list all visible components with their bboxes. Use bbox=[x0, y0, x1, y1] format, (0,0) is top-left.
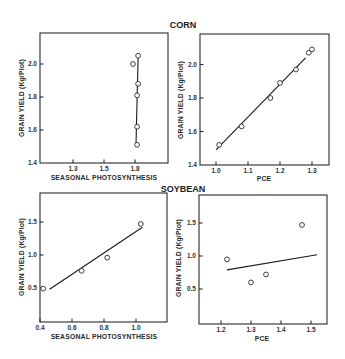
data-point bbox=[138, 222, 143, 227]
data-point bbox=[135, 124, 140, 129]
y-axis-label: GRAIN YIELD (Kg/Plot) bbox=[175, 219, 183, 297]
plot-frame bbox=[40, 193, 167, 322]
x-tick-label: 1.3 bbox=[68, 165, 77, 172]
y-tick-label: 1.5 bbox=[28, 218, 37, 225]
corn-pce-panel: PCE GRAIN YIELD (Kg/Plot) 1.01.11.21.31.… bbox=[177, 34, 329, 182]
data-point bbox=[268, 96, 273, 101]
y-tick-label: 2.0 bbox=[28, 60, 37, 67]
y-tick-label: 1.4 bbox=[188, 161, 197, 168]
y-tick-label: 1.6 bbox=[188, 128, 197, 135]
data-point bbox=[135, 142, 140, 147]
corn-title: CORN bbox=[170, 20, 197, 30]
data-point bbox=[225, 257, 230, 262]
data-point bbox=[310, 47, 315, 52]
y-tick-label: 0.5 bbox=[187, 285, 196, 292]
x-tick-label: 1.3 bbox=[307, 167, 316, 174]
y-axis-label: GRAIN YIELD (Kg/Plot) bbox=[18, 218, 26, 296]
x-axis-label: PCE bbox=[257, 175, 272, 182]
data-point bbox=[249, 280, 254, 285]
x-tick-label: 1.5 bbox=[306, 326, 315, 333]
regression-line bbox=[227, 255, 317, 270]
regression-line bbox=[216, 58, 306, 150]
corn-photosynthesis-panel: SEASONAL PHOTOSYNTHESIS GRAIN YIELD (Kg/… bbox=[18, 33, 168, 181]
x-axis-label: PCE bbox=[255, 335, 270, 342]
data-point bbox=[264, 272, 269, 277]
data-point bbox=[131, 62, 136, 67]
data-point bbox=[239, 124, 244, 129]
y-tick-label: 1.6 bbox=[28, 126, 37, 133]
figure: CORN SOYBEAN SEASONAL PHOTOSYNTHESIS GRA… bbox=[0, 0, 345, 359]
data-point bbox=[79, 268, 84, 273]
data-point bbox=[278, 81, 283, 86]
x-tick-label: 1.1 bbox=[243, 167, 252, 174]
x-tick-label: 0.8 bbox=[99, 324, 108, 331]
y-tick-label: 1.5 bbox=[187, 219, 196, 226]
data-point bbox=[105, 255, 110, 260]
x-tick-label: 0.4 bbox=[35, 324, 44, 331]
x-tick-label: 1.2 bbox=[216, 326, 225, 333]
data-point bbox=[136, 81, 141, 86]
y-tick-label: 2.0 bbox=[188, 61, 197, 68]
soybean-pce-panel: PCE GRAIN YIELD (Kg/Plot) 1.21.31.41.50.… bbox=[175, 195, 327, 342]
x-axis-label: SEASONAL PHOTOSYNTHESIS bbox=[51, 333, 158, 340]
data-point bbox=[135, 93, 140, 98]
y-tick-label: 1.4 bbox=[28, 159, 37, 166]
y-tick-label: 0.5 bbox=[28, 284, 37, 291]
x-tick-label: 0.6 bbox=[67, 324, 76, 331]
regression-line bbox=[50, 227, 143, 289]
data-point bbox=[217, 143, 222, 148]
data-point bbox=[300, 223, 305, 228]
y-tick-label: 1.0 bbox=[28, 251, 37, 258]
x-tick-label: 1.0 bbox=[131, 324, 140, 331]
y-tick-label: 1.0 bbox=[187, 252, 196, 259]
data-point bbox=[294, 67, 299, 72]
data-point bbox=[136, 53, 141, 58]
x-tick-label: 1.3 bbox=[246, 326, 255, 333]
x-axis-label: SEASONAL PHOTOSYNTHESIS bbox=[51, 174, 158, 181]
x-tick-label: 1.4 bbox=[276, 326, 285, 333]
x-tick-label: 1.2 bbox=[275, 167, 284, 174]
y-tick-label: 1.8 bbox=[188, 94, 197, 101]
regression-line bbox=[136, 57, 138, 143]
x-tick-label: 1.0 bbox=[211, 167, 220, 174]
data-point bbox=[41, 286, 46, 291]
soybean-photosynthesis-panel: SEASONAL PHOTOSYNTHESIS GRAIN YIELD (Kg/… bbox=[18, 193, 167, 340]
x-tick-label: 1.5 bbox=[99, 165, 108, 172]
plot-frame bbox=[40, 33, 168, 163]
plot-frame bbox=[199, 195, 327, 324]
y-axis-label: GRAIN YIELD (Kg/Plot) bbox=[177, 61, 185, 139]
x-tick-label: 1.8 bbox=[130, 165, 139, 172]
y-tick-label: 1.8 bbox=[28, 93, 37, 100]
y-axis-label: GRAIN YIELD (Kg/Plot) bbox=[18, 59, 26, 137]
